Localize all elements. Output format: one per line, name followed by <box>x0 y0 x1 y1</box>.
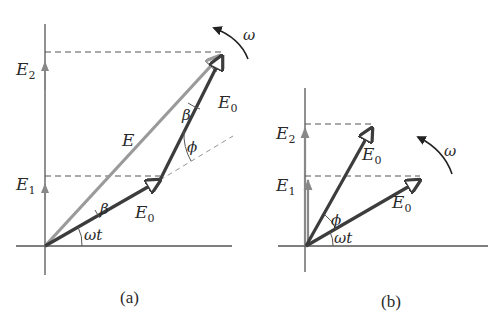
a-beta-upper-label: β <box>181 106 191 124</box>
a-resultant-label: E <box>121 130 135 150</box>
a-omega-t-arc <box>78 227 82 246</box>
a-e1-label: E1 <box>15 174 35 197</box>
panel-b: E2 E1 E0 E0 ϕ ωt ω (b) <box>275 88 488 311</box>
b-e1-label: E1 <box>275 175 295 198</box>
a-phi-label: ϕ <box>187 138 197 156</box>
panel-a: E2 E1 E E0 E0 β β ϕ ωt ω (a) <box>15 24 255 307</box>
b-upper-e0-label: E0 <box>361 144 381 167</box>
a-caption: (a) <box>120 288 139 307</box>
a-beta-lower-label: β <box>99 200 109 218</box>
phasor-diagram: E2 E1 E E0 E0 β β ϕ ωt ω (a) E2 E1 E0 <box>0 0 499 332</box>
b-e2-label: E2 <box>275 123 295 146</box>
b-omega-label: ω <box>444 142 456 160</box>
b-caption: (b) <box>381 292 401 311</box>
a-omega-label: ω <box>243 26 255 44</box>
b-lower-e0-label: E0 <box>391 192 411 215</box>
a-first-e0-label: E0 <box>134 202 154 225</box>
a-omega-t-label: ωt <box>84 226 103 244</box>
a-e2-label: E2 <box>15 59 35 82</box>
b-phi-label: ϕ <box>331 211 341 229</box>
b-omega-t-arc <box>330 232 333 246</box>
a-second-e0-label: E0 <box>217 92 237 115</box>
b-omega-t-label: ωt <box>334 229 353 247</box>
